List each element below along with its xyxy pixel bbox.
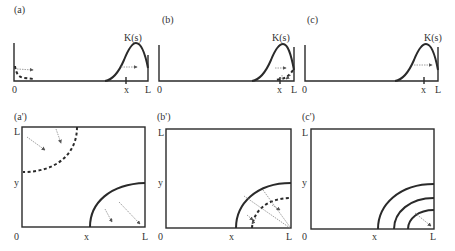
end-label: L: [145, 84, 151, 95]
arrow: [415, 213, 431, 226]
diagonal: [244, 196, 290, 228]
panel-label: (a'): [14, 111, 27, 123]
panel-label: (a): [14, 4, 25, 16]
domain-square: [166, 129, 291, 228]
panel-a-prime: (a') L y 0 x L: [14, 111, 148, 242]
axes: [159, 45, 294, 81]
origin-label: 0: [302, 84, 307, 95]
panel-b: (b) K(s) 0 x L: [157, 14, 297, 95]
origin-label: 0: [302, 231, 307, 242]
dashed-arc: [252, 198, 291, 228]
x-label: x: [84, 231, 89, 242]
kernel-curve: [395, 44, 438, 81]
y-label: y: [158, 177, 163, 188]
x-label: x: [229, 231, 234, 242]
origin-label: 0: [157, 84, 162, 95]
arrow: [247, 215, 253, 220]
panel-c-prime: (c') L y 0 x L: [302, 111, 436, 242]
panel-b-prime: (b') L y 0 x L: [157, 111, 292, 242]
arrow: [272, 205, 280, 210]
end-label: L: [291, 84, 297, 95]
x-label: x: [421, 84, 426, 95]
top-label: L: [302, 127, 308, 138]
origin-label: 0: [12, 84, 17, 95]
dashed-curve: [15, 66, 34, 79]
panel-a: (a) K(s) 0 x L: [12, 4, 151, 95]
arrow: [27, 137, 45, 150]
arrow: [17, 69, 33, 70]
origin-label: 0: [158, 231, 163, 242]
dashed-arc: [23, 127, 77, 172]
domain-square: [311, 129, 434, 229]
origin-label: 0: [14, 231, 19, 242]
arrow: [105, 209, 112, 222]
x-label: x: [372, 231, 377, 242]
panel-label: (c): [307, 14, 318, 26]
panel-c: (c) K(s) 0 x L: [302, 14, 442, 95]
end-label: L: [286, 231, 292, 242]
top-label: L: [14, 126, 20, 137]
panel-label: (b'): [157, 111, 170, 123]
y-label: y: [302, 177, 307, 188]
inner-arc: [408, 210, 434, 229]
end-label: L: [435, 84, 441, 95]
domain-square: [22, 127, 145, 227]
diagonal: [263, 190, 290, 227]
x-label: x: [124, 84, 129, 95]
end-label: L: [430, 231, 436, 242]
curve-label: K(s): [272, 32, 290, 44]
solid-arc: [236, 183, 291, 228]
curve-label: K(s): [124, 32, 142, 44]
curve-label: K(s): [424, 32, 442, 44]
axes: [14, 43, 148, 81]
y-label: y: [14, 177, 19, 188]
end-label: L: [142, 231, 148, 242]
figure: (a) K(s) 0 x L (b) K(s) 0 x L (c) K(s) 0…: [0, 0, 455, 251]
middle-arc: [394, 198, 434, 229]
top-label: L: [158, 127, 164, 138]
x-label: x: [277, 84, 282, 95]
panel-label: (b): [162, 14, 174, 26]
panel-label: (c'): [302, 111, 315, 123]
kernel-curve: [105, 43, 148, 81]
arrow: [56, 129, 61, 143]
arrow: [119, 202, 140, 224]
